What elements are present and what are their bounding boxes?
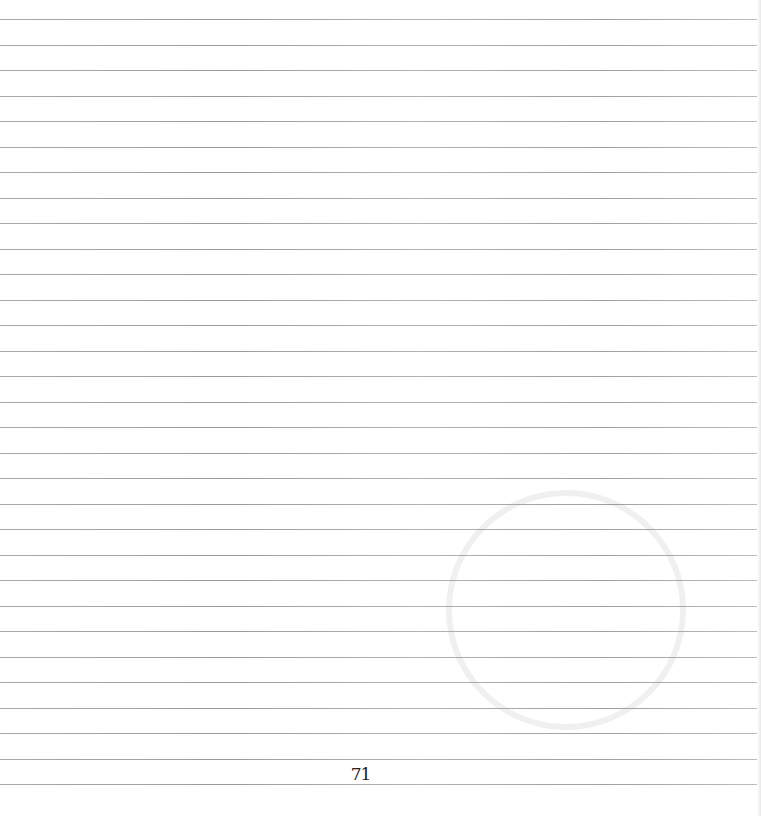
ruled-line bbox=[0, 19, 758, 20]
ruled-line bbox=[0, 427, 758, 428]
page-number-text: 71 bbox=[351, 764, 371, 784]
ruled-line bbox=[0, 96, 758, 97]
ruled-line bbox=[0, 529, 758, 530]
ruled-line bbox=[0, 580, 758, 581]
ruled-line bbox=[0, 172, 758, 173]
ruled-line bbox=[0, 402, 758, 403]
ruled-line bbox=[0, 121, 758, 122]
ruled-line bbox=[0, 478, 758, 479]
ruled-line bbox=[0, 657, 758, 658]
ruled-line bbox=[0, 759, 758, 760]
ruled-line bbox=[0, 453, 758, 454]
ruled-line bbox=[0, 606, 758, 607]
page-edge bbox=[757, 0, 761, 816]
bleed-through-stamp-mark bbox=[446, 490, 686, 730]
ruled-line bbox=[0, 376, 758, 377]
ruled-line bbox=[0, 249, 758, 250]
ruled-line bbox=[0, 784, 758, 785]
ruled-line bbox=[0, 45, 758, 46]
notebook-page: 71 bbox=[0, 0, 761, 816]
page-number: 71 bbox=[0, 764, 761, 784]
ruled-line bbox=[0, 70, 758, 71]
ruled-line bbox=[0, 682, 758, 683]
ruled-line bbox=[0, 555, 758, 556]
ruled-line bbox=[0, 147, 758, 148]
ruled-line bbox=[0, 274, 758, 275]
ruled-line bbox=[0, 504, 758, 505]
ruled-line bbox=[0, 733, 758, 734]
ruled-line bbox=[0, 198, 758, 199]
ruled-line bbox=[0, 300, 758, 301]
ruled-line bbox=[0, 708, 758, 709]
ruled-line bbox=[0, 351, 758, 352]
ruled-line bbox=[0, 223, 758, 224]
ruled-line bbox=[0, 325, 758, 326]
ruled-line bbox=[0, 631, 758, 632]
